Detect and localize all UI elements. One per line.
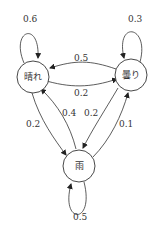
node-cloudy: 曇り xyxy=(115,59,147,91)
node-label: 晴れ xyxy=(24,71,42,82)
edge-label: 0.1 xyxy=(119,119,133,129)
edge-label: 0.2 xyxy=(26,119,40,129)
edge-sunny-cloudy: 0.2 xyxy=(43,79,117,98)
edge-sunny-rain: 0.2 xyxy=(26,93,66,155)
node-label: 曇り xyxy=(122,70,140,80)
edge-sunny-sunny: 0.6 xyxy=(20,14,38,63)
edge-rain-sunny: 0.4 xyxy=(41,89,77,149)
edge-rain-cloudy: 0.1 xyxy=(93,93,133,157)
edge-label: 0.5 xyxy=(74,53,89,63)
edge-label: 0.5 xyxy=(73,212,88,222)
edge-cloudy-cloudy: 0.3 xyxy=(123,14,143,62)
markov-diagram: 0.6 0.3 0.5 0.5 0.2 0.2 0.4 0.2 0.1 晴れ xyxy=(0,0,156,234)
node-rain: 雨 xyxy=(63,150,95,182)
node-sunny: 晴れ xyxy=(17,61,49,93)
node-label: 雨 xyxy=(75,161,84,171)
edge-label: 0.3 xyxy=(128,14,143,24)
edge-cloudy-sunny: 0.5 xyxy=(50,53,116,69)
edge-label: 0.4 xyxy=(62,108,77,118)
edge-label: 0.2 xyxy=(74,88,88,98)
edge-label: 0.2 xyxy=(84,108,98,118)
edge-label: 0.6 xyxy=(23,14,38,24)
edge-rain-rain: 0.5 xyxy=(69,182,88,222)
